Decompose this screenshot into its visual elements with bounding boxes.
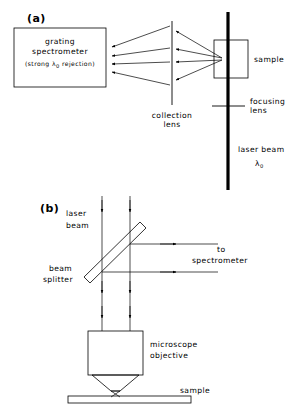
panel-a: (a) grating spectrometer (strong λ0 reje… [14, 12, 285, 190]
laser-beam-label-b-line2: beam [66, 221, 89, 230]
figure-container: (a) grating spectrometer (strong λ0 reje… [0, 0, 299, 405]
focusing-lens-label-line1: focusing [250, 97, 285, 106]
microscope-objective-label-line1: microscope [150, 340, 198, 349]
beam-splitter-label-line2: splitter [43, 275, 73, 284]
to-spectrometer-label-line1: to [217, 245, 225, 254]
laser-lambda-sub-a: 0 [260, 163, 264, 169]
panel-a-label: (a) [27, 12, 46, 25]
collection-lens-label-line1: collection [152, 111, 192, 120]
beam-splitter-label-line1: beam [49, 264, 72, 273]
rays-sample-to-lens [176, 31, 222, 80]
rays-lens-to-spectrometer [112, 26, 170, 85]
laser-beam-lambda-a: λ0 [255, 159, 264, 169]
sample-stage-b [68, 396, 191, 403]
incoming-laser-rays-b [102, 196, 130, 331]
sample-box-a [214, 40, 248, 78]
sample-label-a: sample [254, 55, 284, 64]
laser-beam-label-b-line1: laser [66, 209, 87, 218]
to-spectrometer-label-line2: spectrometer [192, 256, 248, 265]
collection-lens-label-line2: lens [163, 120, 180, 129]
laser-beam-label-a-line1: laser beam [238, 145, 284, 154]
rejection-post: rejection) [60, 60, 95, 68]
physics-diagram-svg: (a) grating spectrometer (strong λ0 reje… [0, 0, 299, 405]
focusing-lens-label-line2: lens [250, 106, 267, 115]
microscope-objective [88, 331, 143, 397]
microscope-objective-label-line2: objective [150, 351, 188, 360]
panel-b: (b) laser beam beam splitter [40, 196, 248, 403]
sample-label-b: sample [180, 386, 210, 395]
objective-barrel [88, 331, 143, 375]
panel-b-label: (b) [40, 202, 59, 215]
spectrometer-line2: spectrometer [32, 47, 88, 56]
rejection-pre: (strong [25, 60, 52, 68]
spectrometer-line1: grating [45, 37, 75, 46]
beam-splitter [84, 222, 146, 283]
spectrometer-rejection-note: (strong λ0 rejection) [25, 60, 95, 69]
objective-cone [92, 375, 139, 391]
